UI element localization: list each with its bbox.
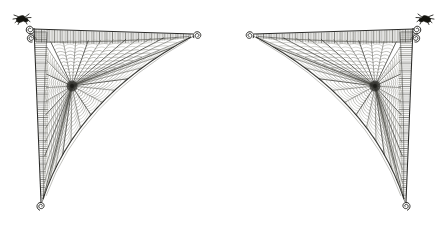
spider-cephalothorax [419,18,424,22]
engraving-plate [0,0,447,235]
hub-center [70,84,74,88]
hub-center [373,84,377,88]
web-hub [67,81,78,92]
web-hub [370,81,381,92]
web-illustration-svg [0,0,447,235]
spider-cephalothorax [23,18,28,22]
